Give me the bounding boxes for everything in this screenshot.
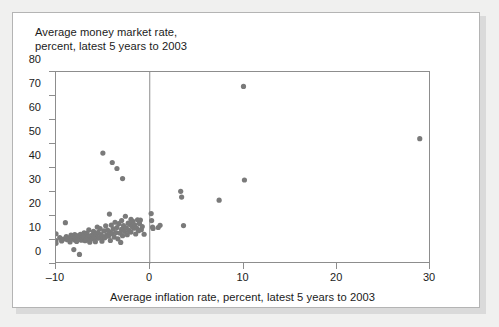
y-tick-label-20: 20 xyxy=(11,197,41,209)
x-tick-label-20: 20 xyxy=(316,271,356,283)
x-tick-label-30: 30 xyxy=(409,271,449,283)
scatter-point xyxy=(123,214,128,219)
y-tick-label-30: 30 xyxy=(11,173,41,185)
y-tick-label-70: 70 xyxy=(11,77,41,89)
scatter-point xyxy=(138,217,143,222)
scatter-point xyxy=(149,211,154,216)
scatter-point xyxy=(71,247,76,252)
chart-card: Average money market rate, percent, late… xyxy=(12,12,480,308)
scatter-point xyxy=(119,218,124,223)
scatter-plot-svg xyxy=(56,72,431,264)
scatter-point xyxy=(241,84,246,89)
plot-area xyxy=(55,71,430,263)
y-tick-label-0: 0 xyxy=(11,245,41,257)
y-tick-label-60: 60 xyxy=(11,101,41,113)
scatter-point xyxy=(114,166,119,171)
scatter-point xyxy=(242,177,247,182)
figure-root: Average money market rate, percent, late… xyxy=(0,0,499,327)
chart-title: Average money market rate, percent, late… xyxy=(35,25,335,54)
y-tick-label-80: 80 xyxy=(11,53,41,65)
scatter-point xyxy=(100,151,105,156)
scatter-point xyxy=(157,223,162,228)
scatter-point xyxy=(63,220,68,225)
x-tick-label-10: 10 xyxy=(223,271,263,283)
scatter-point xyxy=(217,198,222,203)
scatter-point xyxy=(120,176,125,181)
x-tick-label-0: 0 xyxy=(129,271,169,283)
scatter-point xyxy=(181,223,186,228)
scatter-point xyxy=(150,226,155,231)
scatter-point xyxy=(178,189,183,194)
y-tick-label-40: 40 xyxy=(11,149,41,161)
x-tick-label-neg10: –10 xyxy=(35,271,75,283)
scatter-point xyxy=(417,136,422,141)
y-tick-label-50: 50 xyxy=(11,125,41,137)
scatter-point xyxy=(179,194,184,199)
scatter-point xyxy=(107,211,112,216)
scatter-point xyxy=(140,224,145,229)
x-axis-title: Average inflation rate, percent, latest … xyxy=(55,291,430,303)
scatter-point xyxy=(86,227,91,232)
scatter-point-group xyxy=(56,84,422,257)
scatter-point xyxy=(77,252,82,257)
scatter-point xyxy=(142,232,147,237)
scatter-point xyxy=(118,240,123,245)
scatter-point xyxy=(110,160,115,165)
scatter-point xyxy=(149,218,154,223)
y-tick-label-10: 10 xyxy=(11,221,41,233)
